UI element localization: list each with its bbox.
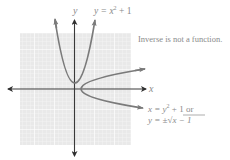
parabola-eq-tail: + 1: [117, 6, 132, 16]
parabola-equation: y = x2 + 1: [93, 5, 132, 16]
inverse-upper-arrow: [135, 69, 145, 71]
graph-figure: y x y = x2 + 1 Inverse is not a function…: [0, 0, 230, 160]
inverse-eq-tail: + 1 or: [170, 104, 194, 114]
inverse-equation-line1: x = y2 + 1 or: [147, 103, 193, 114]
inverse-note: Inverse is not a function.: [138, 34, 222, 44]
inverse-eq-main: x = y: [147, 104, 167, 114]
inverse-equation-line2: y = ±√x − 1: [147, 115, 192, 125]
parabola-left-arrow: [55, 19, 57, 28]
x-axis-label: x: [148, 83, 154, 94]
inverse-eq2-prefix: y = ±: [147, 115, 168, 125]
parabola-eq-main: y = x: [93, 6, 114, 16]
inverse-eq2-radicand: x − 1: [171, 115, 191, 125]
y-axis-label: y: [72, 5, 78, 16]
